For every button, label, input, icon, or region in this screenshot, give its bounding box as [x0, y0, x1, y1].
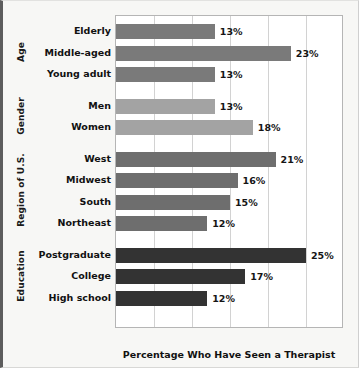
category-label: Postgraduate	[35, 247, 111, 262]
category-label-axis: ElderlyMiddle-agedYoung adultMenWomenWes…	[37, 1, 115, 341]
bar	[116, 120, 253, 135]
bar-value-label: 13%	[220, 99, 243, 114]
bar-value-label: 18%	[258, 120, 281, 135]
bar	[116, 173, 238, 188]
bar-value-label: 23%	[296, 46, 319, 61]
category-label: High school	[35, 290, 111, 305]
group-label-text: Gender	[16, 97, 26, 134]
bar	[116, 99, 215, 114]
group-label-text: Age	[16, 42, 26, 62]
x-axis-title: Percentage Who Have Seen a Therapist	[115, 349, 343, 360]
group-label: Age	[3, 23, 39, 81]
bar-value-label: 13%	[220, 67, 243, 82]
bar-value-label: 16%	[243, 173, 266, 188]
bar	[116, 67, 215, 82]
category-label: West	[35, 151, 111, 166]
category-label: Middle-aged	[35, 45, 111, 60]
group-label-text: Education	[16, 250, 26, 301]
bar-value-label: 21%	[281, 152, 304, 167]
category-label: Elderly	[35, 23, 111, 38]
category-label: Midwest	[35, 172, 111, 187]
group-label-axis: AgeGenderRegion of U.S.Education	[3, 1, 39, 341]
chart-figure: AgeGenderRegion of U.S.Education Elderly…	[0, 0, 359, 368]
bar	[116, 24, 215, 39]
group-label: Gender	[3, 98, 39, 135]
bar	[116, 46, 291, 61]
bar	[116, 291, 207, 306]
bar-value-label: 15%	[235, 195, 258, 210]
plot-area: 13%23%13%13%18%21%16%15%12%25%17%12%	[115, 15, 343, 328]
category-label: Young adult	[35, 66, 111, 81]
bar-value-label: 13%	[220, 24, 243, 39]
bar	[116, 248, 306, 263]
category-label: Northeast	[35, 215, 111, 230]
group-label: Education	[3, 247, 39, 305]
group-label-text: Region of U.S.	[16, 153, 26, 227]
bar	[116, 195, 230, 210]
category-label: Men	[35, 98, 111, 113]
category-label: College	[35, 268, 111, 283]
bar	[116, 152, 276, 167]
bar-value-label: 12%	[212, 216, 235, 231]
bar	[116, 269, 245, 284]
bar-value-label: 25%	[311, 248, 334, 263]
group-label: Region of U.S.	[3, 151, 39, 231]
bar	[116, 216, 207, 231]
bar-value-label: 17%	[250, 269, 273, 284]
gridline	[306, 16, 307, 327]
category-label: South	[35, 194, 111, 209]
bar-value-label: 12%	[212, 291, 235, 306]
category-label: Women	[35, 119, 111, 134]
